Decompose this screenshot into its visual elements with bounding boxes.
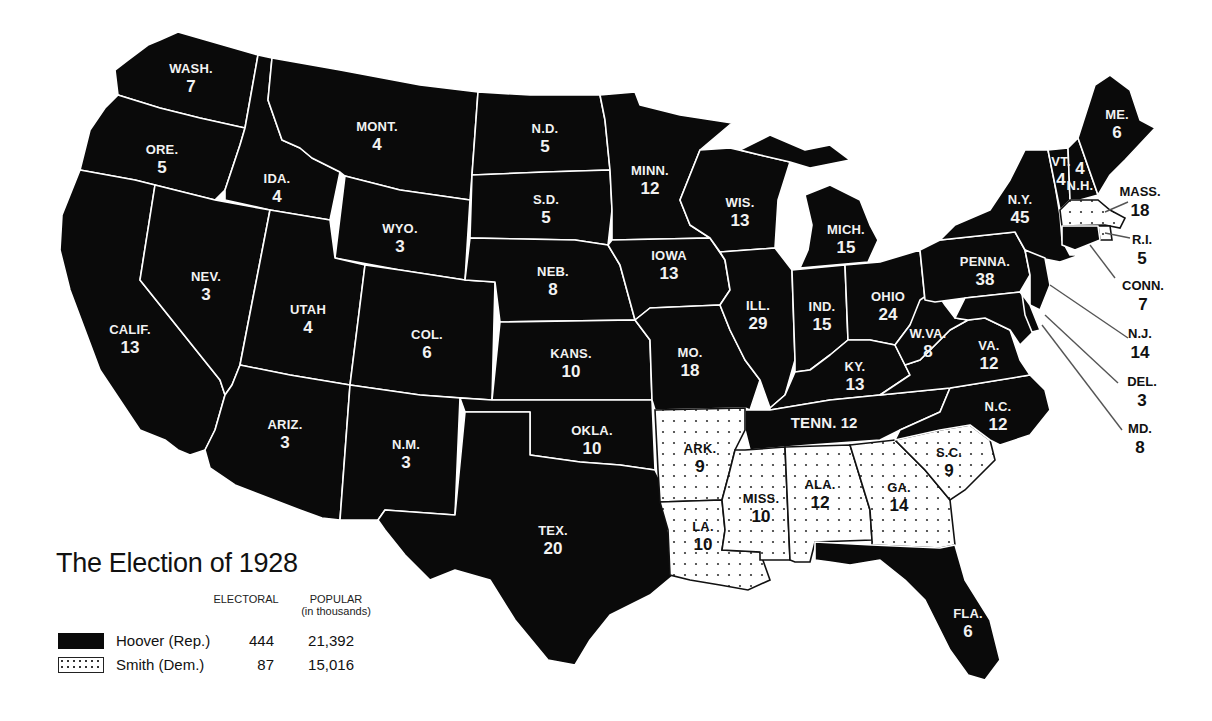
legend-row-smith: Smith (Dem.) 87 15,016 [56, 656, 386, 676]
label-wis: WIS.13 [726, 196, 755, 229]
label-ill: ILL.29 [746, 299, 770, 332]
label-miss: MISS.10 [743, 492, 779, 525]
label-wash: WASH.7 [169, 62, 213, 95]
label-ohio: OHIO24 [871, 290, 905, 323]
legend-header-electoral: ELECTORAL [206, 594, 286, 606]
label-va: VA.12 [978, 339, 999, 372]
label-iowa: IOWA13 [651, 249, 686, 282]
label-md: MD.8 [1128, 422, 1152, 456]
label-tenn: TENN.12 [789, 415, 860, 431]
label-nj: N.J.14 [1128, 327, 1152, 361]
label-kans: KANS.10 [550, 347, 591, 380]
label-nc: N.C.12 [985, 400, 1012, 433]
label-mass: MASS.18 [1119, 185, 1160, 219]
label-wva: W.VA.8 [910, 327, 947, 360]
label-ore: ORE.5 [146, 143, 179, 176]
label-mo: MO.18 [677, 346, 702, 379]
swatch-republican [58, 633, 104, 649]
label-sd: S.D.5 [533, 193, 559, 226]
legend-header-popular: POPULAR(in thousands) [296, 594, 376, 617]
label-penna: PENNA.38 [960, 255, 1010, 288]
label-ark: ARK.9 [684, 442, 717, 475]
label-mont: MONT.4 [356, 120, 397, 153]
label-conn: CONN.7 [1122, 279, 1164, 313]
swatch-democratic [58, 657, 104, 673]
label-fla: FLA.6 [953, 607, 983, 640]
label-ri: R.I.5 [1132, 233, 1152, 267]
state-mass[interactable] [1060, 200, 1125, 228]
label-la: LA.10 [692, 520, 714, 553]
label-wyo: WYO.3 [382, 222, 417, 255]
label-calif: CALIF.13 [109, 323, 151, 356]
map-title: The Election of 1928 [56, 548, 386, 579]
label-ind: IND.15 [809, 300, 836, 333]
label-ny: N.Y.45 [1008, 193, 1033, 226]
label-col: COL.6 [411, 328, 443, 361]
label-mich: MICH.15 [827, 223, 865, 256]
label-ariz: ARIZ.3 [268, 418, 303, 451]
label-utah: UTAH4 [290, 303, 326, 336]
label-ida: IDA.4 [264, 172, 291, 205]
label-nd: N.D.5 [532, 122, 559, 155]
label-nev: NEV.3 [191, 270, 221, 303]
label-ala: ALA.12 [804, 478, 835, 511]
state-conn [1062, 226, 1100, 250]
legend-row-hoover: Hoover (Rep.) 444 21,392 [56, 632, 386, 652]
legend: The Election of 1928 ELECTORAL POPULAR(i… [56, 548, 386, 579]
label-me: ME.6 [1105, 108, 1129, 141]
label-nm: N.M.3 [392, 438, 420, 471]
label-minn: MINN.12 [631, 164, 669, 197]
label-sc: S.C.9 [936, 446, 962, 479]
label-del: DEL.3 [1127, 375, 1157, 409]
label-nh: 4N.H. [1067, 160, 1094, 192]
label-okla: OKLA.10 [571, 424, 612, 457]
label-tex: TEX.20 [538, 524, 568, 557]
label-ky: KY.13 [845, 360, 866, 393]
us-electoral-map [0, 0, 1212, 721]
label-neb: NEB.8 [537, 265, 569, 298]
label-ga: GA.14 [887, 481, 911, 514]
